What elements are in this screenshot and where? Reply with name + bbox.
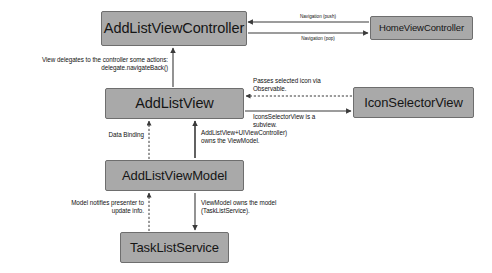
- node-label: TaskListService: [130, 241, 219, 255]
- node-label: AddListViewController: [104, 21, 244, 36]
- node-add-list-view[interactable]: AddListView: [105, 88, 244, 119]
- edge-label-is-subview: IconsSelectorView is a subview.: [253, 113, 353, 130]
- edge-label-navigation-push: Navigation (push): [280, 14, 356, 20]
- node-add-list-view-model[interactable]: AddListViewModel: [105, 160, 244, 191]
- node-home-view-controller[interactable]: HomeViewController: [370, 16, 473, 40]
- diagram-canvas: AddListViewController HomeViewController…: [0, 0, 492, 273]
- node-label: AddListView: [135, 96, 213, 111]
- edge-label-view-model-owns-model: ViewModel owns the model (TaskListServic…: [201, 199, 319, 216]
- node-label: HomeViewController: [379, 23, 464, 33]
- node-icon-selector-view[interactable]: IconSelectorView: [353, 87, 474, 118]
- edge-label-data-binding: Data Binding: [76, 131, 144, 139]
- edge-label-navigation-pop: Navigation (pop): [280, 36, 356, 42]
- node-add-list-view-controller[interactable]: AddListViewController: [101, 11, 247, 46]
- edge-label-owns-view-model: AddListView+UIViewController) owns the V…: [201, 129, 321, 146]
- node-label: AddListViewModel: [122, 169, 227, 183]
- node-label: IconSelectorView: [364, 96, 463, 110]
- edge-label-model-notifies-presenter: Model notifies presenter to update info.: [52, 199, 144, 216]
- edge-label-passes-selected-icon: Passes selected icon via Observable.: [253, 77, 353, 94]
- node-task-list-service[interactable]: TaskListService: [120, 232, 229, 263]
- edge-label-view-delegates: View delegates to the controller some ac…: [20, 56, 168, 73]
